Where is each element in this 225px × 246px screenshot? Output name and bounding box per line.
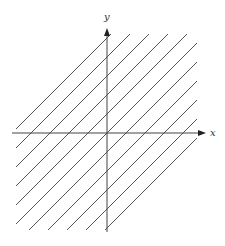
- x-axis-arrow-icon: [198, 130, 206, 136]
- parallel-line: [48, 81, 197, 230]
- y-axis-arrow-icon: [104, 28, 110, 36]
- parallel-line: [105, 138, 197, 230]
- parallel-line: [67, 100, 197, 230]
- parallel-line: [16, 34, 111, 129]
- parallel-line: [16, 34, 187, 205]
- slope-field-diagram: x y: [0, 0, 225, 246]
- x-axis-label: x: [210, 127, 216, 138]
- parallel-line: [16, 34, 149, 167]
- y-axis-label: y: [103, 11, 110, 22]
- parallel-line: [29, 62, 197, 230]
- parallel-line: [86, 119, 197, 230]
- parallel-line: [16, 34, 130, 148]
- parallel-line: [16, 34, 168, 186]
